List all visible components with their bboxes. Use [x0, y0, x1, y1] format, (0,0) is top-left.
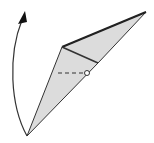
pivot-point-circle — [85, 71, 90, 76]
arrowhead-icon — [18, 11, 27, 24]
origami-diagram — [0, 0, 154, 143]
rotation-arrow — [13, 20, 27, 136]
